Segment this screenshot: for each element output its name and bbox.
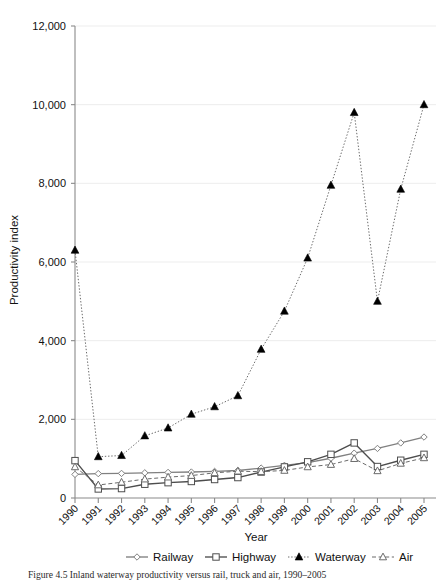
data-point-marker	[118, 485, 124, 491]
figure-container: 02,0004,0006,0008,00010,00012,000 199019…	[0, 0, 446, 580]
y-axis-tick-label: 4,000	[38, 335, 66, 347]
legend-label-air: Air	[399, 551, 413, 563]
x-axis-title: Year	[244, 531, 267, 543]
y-axis-tick-label: 2,000	[38, 413, 66, 425]
data-point-marker	[351, 440, 357, 446]
y-axis-tick-label: 12,000	[32, 20, 66, 32]
y-axis-tick-label: 0	[60, 492, 66, 504]
y-axis-tick-label: 6,000	[38, 256, 66, 268]
legend-label-highway: Highway	[232, 551, 276, 563]
legend-label-waterway: Waterway	[315, 551, 366, 563]
data-point-marker	[235, 474, 241, 480]
figure-caption: Figure 4.5 Inland waterway productivity …	[28, 569, 438, 580]
data-point-marker	[213, 554, 219, 560]
chart-background	[0, 0, 446, 580]
y-axis-tick-label: 8,000	[38, 177, 66, 189]
y-axis-tick-label: 10,000	[32, 99, 66, 111]
legend-label-railway: Railway	[153, 551, 194, 563]
productivity-index-line-chart: 02,0004,0006,0008,00010,00012,000 199019…	[0, 0, 446, 580]
data-point-marker	[211, 476, 217, 482]
y-axis-title: Productivity index	[8, 215, 20, 305]
data-point-marker	[188, 478, 194, 484]
data-point-marker	[328, 451, 334, 457]
